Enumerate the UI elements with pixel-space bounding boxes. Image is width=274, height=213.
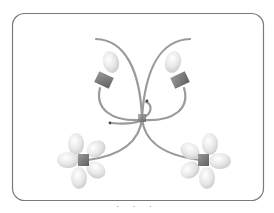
strand-hook-left bbox=[112, 121, 140, 124]
block bbox=[170, 71, 190, 89]
unit-upper-right bbox=[162, 49, 189, 89]
diagram-canvas bbox=[0, 0, 274, 213]
lobe bbox=[100, 49, 121, 74]
unit-lower-right bbox=[177, 133, 231, 189]
strand-hook-upper bbox=[146, 102, 151, 116]
arrow-left-icon bbox=[109, 122, 112, 125]
unit-lower-left bbox=[57, 133, 109, 189]
block bbox=[198, 154, 209, 166]
arrow-upper-icon bbox=[146, 100, 149, 103]
caption-fragment: · · · bbox=[0, 203, 274, 211]
diagram-frame bbox=[13, 14, 264, 201]
lobe bbox=[162, 49, 183, 74]
block bbox=[78, 154, 89, 166]
strand-loop-left bbox=[99, 88, 142, 120]
block bbox=[94, 71, 114, 89]
unit-upper-left bbox=[94, 49, 121, 89]
junction-block bbox=[138, 114, 146, 122]
